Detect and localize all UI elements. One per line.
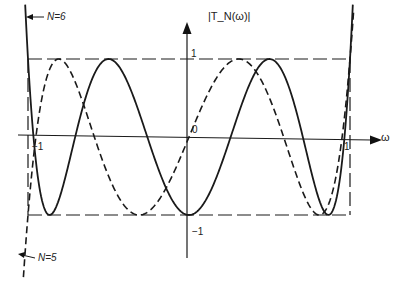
x-axis-label: ω bbox=[381, 131, 390, 143]
x-tick-neg-one: −1 bbox=[32, 141, 43, 152]
x-tick-one: 1 bbox=[344, 141, 350, 152]
annotation-n5: N=5 bbox=[38, 252, 57, 263]
curve-n6-solid bbox=[25, 5, 353, 215]
annotation-n6: N=6 bbox=[47, 11, 66, 22]
annotation-arrows bbox=[18, 14, 44, 258]
axes bbox=[18, 22, 382, 258]
chebyshev-figure bbox=[0, 0, 397, 285]
origin-label: 0 bbox=[192, 124, 198, 135]
y-tick-one: 1 bbox=[191, 48, 197, 59]
y-axis-label: |T_N(ω)| bbox=[208, 10, 250, 22]
y-tick-neg-one: −1 bbox=[192, 226, 203, 237]
